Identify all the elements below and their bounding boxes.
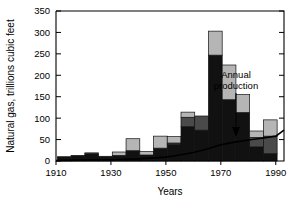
bar-segment-lower-segment-1988 [263, 154, 277, 161]
bar-segment-lower-segment-1953 [167, 145, 181, 161]
bar-segment-upper-segment-1988 [263, 120, 277, 136]
x-tick-label-1950: 1950 [155, 167, 176, 178]
y-tick-label-250: 250 [34, 48, 50, 59]
y-tick-label-150: 150 [34, 91, 50, 102]
y-tick-label-50: 50 [39, 134, 50, 145]
annotation-annual-production-line2: production [214, 80, 258, 91]
x-tick-label-1930: 1930 [100, 167, 121, 178]
x-tick-label-1910: 1910 [45, 167, 66, 178]
bar-segment-lower-segment-1963 [195, 130, 209, 161]
y-tick-label-300: 300 [34, 27, 50, 38]
bar-segment-upper-segment-1948 [154, 136, 168, 148]
bar-segment-upper-segment-1933 [112, 152, 126, 155]
bar-segment-lower-segment-1948 [154, 148, 168, 161]
bar-segment-middle-segment-1988 [263, 136, 277, 154]
x-tick-label-1990: 1990 [265, 167, 286, 178]
x-tick-label-1970: 1970 [210, 167, 231, 178]
bar-segment-lower-segment-1983 [250, 147, 264, 161]
x-axis-title: Years [157, 186, 182, 197]
bar-segment-lower-segment-1978 [236, 113, 250, 161]
bar-segment-upper-segment-1983 [250, 131, 264, 137]
y-tick-label-0: 0 [45, 155, 50, 166]
y-tick-label-200: 200 [34, 70, 50, 81]
annotation-annual-production-line1: Annual [221, 69, 251, 80]
bar-segment-upper-segment-1958 [181, 112, 195, 117]
bar-segment-upper-segment-1943 [140, 152, 154, 155]
bar-segment-upper-segment-1968 [208, 31, 222, 55]
chart-figure: 050100150200250300350 191019301950197019… [0, 0, 301, 205]
bar-segment-upper-segment-1978 [236, 95, 250, 113]
y-tick-label-350: 350 [34, 5, 50, 16]
bar-segment-upper-segment-1938 [126, 139, 140, 151]
bar-segment-lower-segment-1958 [181, 127, 195, 161]
y-tick-label-100: 100 [34, 113, 50, 124]
natural-gas-reserves-chart: 050100150200250300350 191019301950197019… [0, 0, 301, 205]
x-axis-ticks: 19101930195019701990 [45, 161, 286, 178]
bar-segment-middle-segment-1963 [195, 116, 209, 130]
bar-segment-upper-segment-1923 [85, 153, 99, 154]
bar-segment-upper-segment-1953 [167, 137, 181, 143]
bar-segment-middle-segment-1958 [181, 117, 195, 126]
y-axis-title: Natural gas, trillions cubic feet [5, 19, 16, 153]
